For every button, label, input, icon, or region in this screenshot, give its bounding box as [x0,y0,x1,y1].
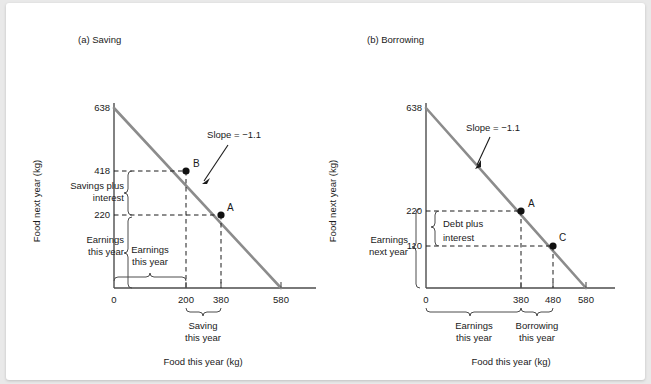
panel-b-point-a-label: A [528,198,535,209]
panel-b-ytick-638: 638 [406,102,422,113]
panel-a-title: (a) Saving [78,34,121,45]
panel-b-xtick-580: 580 [578,294,594,305]
panel-saving: (a) Saving Food next year (kg) B A Slope… [6,3,326,380]
panel-a-x-axis-label: Food this year (kg) [163,356,242,367]
panel-b-xtick-480: 480 [545,294,561,305]
panel-a-ytick-418: 418 [94,165,110,176]
panel-b-earnings-this-year-line2: this year [456,332,492,343]
panel-a-slope-arrow-line [204,145,228,181]
panel-a-savings-plus-interest-line2: interest [93,192,125,203]
panel-b-earnings-next-year-line2: next year [369,246,408,257]
panel-a-point-b [182,167,189,174]
panel-a-slope-label: Slope = −1.1 [207,129,261,140]
panel-b-x-axis-label: Food this year (kg) [471,356,550,367]
panel-a-point-a [217,211,224,218]
panel-b-borrowing-this-year-line2: this year [519,332,555,343]
panel-b-budget-line [426,108,586,288]
panel-b-earnings-this-year-line1: Earnings [455,320,493,331]
panel-a-point-b-label: B [193,158,200,169]
panel-a-ytick-220: 220 [94,209,110,220]
panel-b-ytick-220: 220 [406,205,422,216]
panel-b-borrowing-this-year-line1: Borrowing [516,320,559,331]
panel-b-xtick-0: 0 [423,294,428,305]
panel-b-point-a [517,207,524,214]
panel-b-y-axis-label: Food next year (kg) [327,160,338,242]
panel-b-xtick-380: 380 [513,294,529,305]
panel-a-ytick-638: 638 [94,102,110,113]
panel-a-brace-saving-this-year [186,308,221,316]
panel-b-earnings-next-year-line1: Earnings [371,234,409,245]
panel-b-slope-arrow-line [477,137,490,165]
panel-borrowing: (b) Borrowing Food next year (kg) A C Sl… [325,3,645,380]
panel-b-brace-debt-plus-interest [431,211,439,246]
panel-a-saving-this-year-line1: Saving [188,320,217,331]
panel-a-saving-this-year-line2: this year [185,332,221,343]
panel-b-debt-plus-interest-line2: interest [443,232,475,243]
panel-a-xtick-0: 0 [111,294,116,305]
panel-b-slope-label: Slope = −1.1 [466,122,520,133]
panel-a-brace-earnings-this-year [114,273,186,281]
panel-a-brace-savings-plus-interest [124,171,132,215]
panel-b-debt-plus-interest-line1: Debt plus [443,218,483,229]
figure-card: (a) Saving Food next year (kg) B A Slope… [6,3,645,380]
panel-a-xtick-200: 200 [178,294,194,305]
panel-a-earnings-next-year-line2: this year [88,246,124,257]
panel-b-brace-borrowing-this-year [521,308,553,316]
panel-a-xtick-580: 580 [273,294,289,305]
panel-a-earnings-next-year-line1: Earnings [87,234,125,245]
panel-a-savings-plus-interest-line1: Savings plus [70,180,124,191]
panel-b-point-c [549,242,556,249]
panel-a-earnings-this-year-line2: this year [132,256,168,267]
panel-b-point-c-label: C [559,232,566,243]
panel-a-xtick-380: 380 [213,294,229,305]
panel-a-earnings-this-year-line1: Earnings [131,244,169,255]
panel-b-ytick-110: 110 [407,240,422,251]
panel-a-point-a-label: A [227,202,234,213]
panel-b-title: (b) Borrowing [367,34,424,45]
panel-b-brace-earnings-this-year [426,308,521,316]
panel-a-y-axis-label: Food next year (kg) [31,160,42,242]
